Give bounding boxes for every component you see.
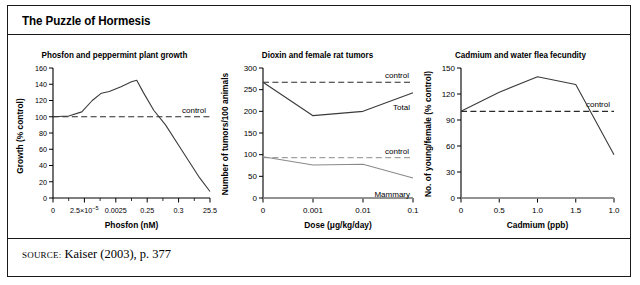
- x-axis-title: Cadmium (ppb): [507, 220, 569, 230]
- y-tick-label: 80: [39, 129, 47, 138]
- x-tick-label: 0.5: [494, 206, 506, 215]
- x-tick-label: 0.3: [174, 206, 184, 215]
- series-line-mammary: [263, 157, 413, 178]
- y-tick-label: 50: [248, 172, 257, 181]
- series-line-growth: [53, 80, 210, 191]
- chart-plot-phosfon: 02040608010012014016002.5×10−50.00250.25…: [12, 62, 217, 236]
- y-tick-label: 160: [35, 64, 47, 73]
- chart-title: Dioxin and female rat tumors: [221, 50, 414, 60]
- y-tick-label: 30: [446, 168, 455, 177]
- y-tick-label: 120: [35, 96, 47, 105]
- x-axis-title: Dose (μg/kg/day): [304, 220, 372, 230]
- title-divider: [8, 34, 630, 35]
- y-tick-label: 20: [39, 178, 47, 187]
- chart-panel-dioxin: Dioxin and female rat tumors 05010015020…: [215, 40, 420, 236]
- y-tick-label: 0: [451, 194, 456, 203]
- x-tick-label: 1.5: [570, 206, 582, 215]
- x-tick-label: 0: [261, 206, 266, 215]
- x-tick-label: 2.5×10−5: [70, 205, 99, 215]
- y-tick-label: 120: [442, 90, 456, 99]
- source-citation: SOURCE: Kaiser (2003), p. 377: [22, 247, 171, 262]
- x-tick-label: 0.0025: [105, 206, 127, 215]
- x-tick-label: 0: [51, 206, 55, 215]
- x-tick-label: 1.0: [608, 206, 620, 215]
- control-label: control: [182, 106, 206, 115]
- source-text: Kaiser (2003), p. 377: [61, 247, 171, 261]
- y-tick-label: 200: [244, 107, 258, 116]
- y-axis-title: Growth (% control): [15, 98, 25, 174]
- page-title: The Puzzle of Hormesis: [22, 14, 150, 28]
- chart-title: Phosfon and peppermint plant growth: [18, 50, 211, 60]
- y-tick-label: 0: [253, 194, 258, 203]
- control-label: control: [586, 100, 610, 109]
- series-line-total: [263, 82, 413, 115]
- y-tick-label: 40: [39, 161, 47, 170]
- y-tick-label: 90: [446, 116, 455, 125]
- y-tick-label: 300: [244, 64, 258, 73]
- chart-panel-phosfon: Phosfon and peppermint plant growth 0204…: [12, 40, 217, 236]
- figure-frame: The Puzzle of Hormesis Phosfon and peppe…: [7, 5, 631, 277]
- x-tick-label: 0.001: [303, 206, 324, 215]
- y-tick-label: 150: [244, 129, 258, 138]
- source-divider: [8, 238, 630, 239]
- x-axis-title: Phosfon (nM): [105, 220, 159, 230]
- y-tick-label: 100: [244, 150, 258, 159]
- chart-plot-dioxin: 05010015020025030000.0010.010.1controlco…: [215, 62, 420, 236]
- control-label: control: [385, 147, 409, 156]
- x-tick-label: 0: [459, 206, 464, 215]
- source-label: SOURCE:: [22, 250, 61, 260]
- series-line-fecundity: [461, 77, 614, 155]
- x-tick-label: 0.25: [140, 206, 154, 215]
- y-tick-label: 0: [43, 194, 47, 203]
- y-tick-label: 150: [442, 64, 456, 73]
- x-tick-label: 0.01: [355, 206, 371, 215]
- y-tick-label: 250: [244, 85, 258, 94]
- chart-title: Cadmium and water flea fecundity: [424, 50, 617, 60]
- y-tick-label: 60: [446, 142, 455, 151]
- series-label: Total: [393, 103, 410, 112]
- control-label: control: [385, 71, 409, 80]
- y-tick-label: 140: [35, 80, 47, 89]
- y-axis-title: Number of tumors/100 animals: [220, 72, 230, 195]
- y-tick-label: 60: [39, 145, 47, 154]
- y-axis-title: No. of young/female (% control): [423, 71, 433, 197]
- x-tick-label: 1.0: [532, 206, 544, 215]
- chart-panel-cadmium: Cadmium and water flea fecundity 0306090…: [418, 40, 623, 236]
- y-tick-label: 100: [35, 113, 47, 122]
- chart-plot-cadmium: 030609012015000.51.01.51.0controlCadmium…: [418, 62, 623, 236]
- series-label: Mammary: [374, 190, 410, 199]
